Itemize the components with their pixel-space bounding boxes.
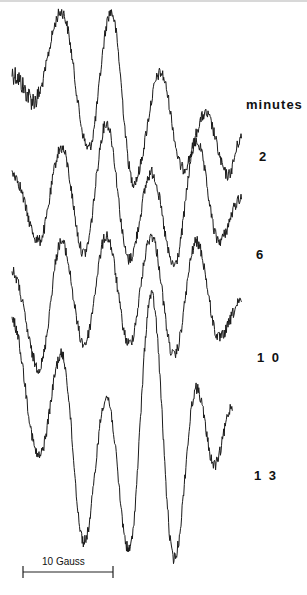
trace-2-minutes — [12, 9, 242, 188]
spectra-plot — [0, 0, 307, 595]
legend-title-minutes: minutes — [246, 97, 303, 112]
trace-label-13: 1 3 — [254, 468, 278, 483]
traces-group — [12, 9, 242, 564]
scale-bar — [23, 566, 113, 578]
trace-label-6: 6 — [256, 247, 265, 262]
trace-label-2: 2 — [259, 149, 268, 164]
trace-10-minutes — [12, 232, 242, 374]
scale-bar-label: 10 Gauss — [42, 556, 85, 567]
trace-label-10: 1 0 — [257, 350, 281, 365]
trace-13-minutes — [12, 290, 232, 563]
